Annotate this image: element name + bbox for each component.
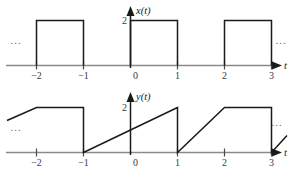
yt-waveform	[7, 108, 287, 153]
xt-ticklabel--1: −1	[78, 70, 89, 81]
yt-ticklabel-2: 2	[222, 157, 227, 168]
chart-xt: t x(t) 2 −2 −1 0 1 2 3 ... ...	[6, 5, 288, 81]
xt-ellipsis-right: ...	[275, 34, 286, 46]
yt-ytick-label-2: 2	[122, 102, 127, 113]
xt-ticklabel-2: 2	[222, 70, 227, 81]
xt-waveform	[37, 21, 272, 66]
yt-ticklabel--2: −2	[31, 157, 42, 168]
xt-taxis-label: t	[284, 60, 288, 71]
yt-vaxis-arrowhead	[127, 92, 135, 102]
yt-ticklabel--1: −1	[78, 157, 89, 168]
xt-ticklabel-1: 1	[175, 70, 180, 81]
chart-yt: t y(t) 2 −2 −1 0 1 2 3 ... ...	[6, 91, 288, 168]
xt-ticklabel-3: 3	[269, 70, 274, 81]
xt-ellipsis-left: ...	[10, 34, 21, 46]
yt-signal-label: y(t)	[135, 91, 151, 103]
xt-ticklabel-0: 0	[133, 70, 138, 81]
yt-ticklabel-0: 0	[133, 157, 138, 168]
xt-ticklabel--2: −2	[31, 70, 42, 81]
yt-ticklabel-3: 3	[269, 157, 274, 168]
yt-ellipsis-right: ...	[271, 116, 282, 128]
xt-taxis-arrowhead	[272, 62, 282, 70]
yt-taxis-label: t	[284, 147, 288, 158]
xt-signal-label: x(t)	[135, 5, 151, 17]
waveform-svg: t x(t) 2 −2 −1 0 1 2 3 ... ...	[0, 0, 294, 174]
xt-vaxis-arrowhead	[127, 6, 135, 16]
yt-ticklabel-1: 1	[175, 157, 180, 168]
yt-ellipsis-left: ...	[10, 121, 21, 133]
xt-ytick-label-2: 2	[122, 15, 127, 26]
signal-figure: t x(t) 2 −2 −1 0 1 2 3 ... ...	[0, 0, 294, 174]
